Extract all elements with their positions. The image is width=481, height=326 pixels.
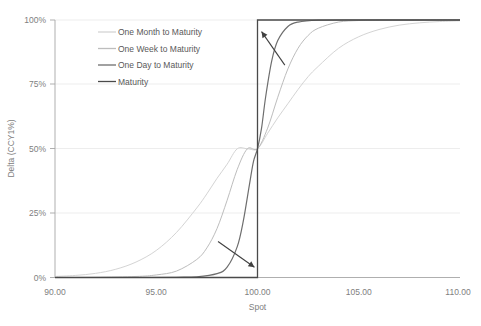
x-tick-labels: 90.00 95.00 100.00 105.00 110.00 <box>44 287 471 297</box>
y-tick-label-0: 0% <box>34 273 47 283</box>
delta-vs-spot-chart: 100% 75% 50% 25% 0% 90.00 95.00 100.00 1… <box>0 0 481 326</box>
x-axis-title: Spot <box>249 302 267 312</box>
legend-label-1: One Week to Maturity <box>118 44 201 54</box>
x-tick-label-90: 90.00 <box>44 287 66 297</box>
y-axis-title: Delta (CCY1%) <box>6 119 16 177</box>
lower-convergence-arrow <box>218 241 254 267</box>
legend-label-2: One Day to Maturity <box>118 60 194 70</box>
legend-label-3: Maturity <box>118 77 149 87</box>
y-tick-label-25: 25% <box>29 208 46 218</box>
x-tick-label-95: 95.00 <box>146 287 168 297</box>
y-tick-marks <box>50 20 55 278</box>
upper-convergence-arrow-head <box>262 32 268 39</box>
chart-canvas: 100% 75% 50% 25% 0% 90.00 95.00 100.00 1… <box>0 0 481 326</box>
chart-legend: One Month to MaturityOne Week to Maturit… <box>98 27 203 87</box>
y-tick-label-50: 50% <box>29 144 46 154</box>
upper-convergence-arrow <box>262 32 285 65</box>
x-tick-label-110: 110.00 <box>445 287 471 297</box>
y-tick-label-75: 75% <box>29 79 46 89</box>
lower-convergence-arrow-head <box>248 261 255 267</box>
legend-label-0: One Month to Maturity <box>118 27 203 37</box>
x-tick-label-100: 100.00 <box>245 287 271 297</box>
y-tick-label-100: 100% <box>24 15 46 25</box>
x-tick-label-105: 105.00 <box>346 287 372 297</box>
y-tick-labels: 100% 75% 50% 25% 0% <box>24 15 46 283</box>
